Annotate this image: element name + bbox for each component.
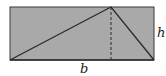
height-label: h — [157, 25, 165, 40]
triangle-area-diagram: b h — [0, 0, 166, 76]
base-label: b — [80, 61, 88, 76]
